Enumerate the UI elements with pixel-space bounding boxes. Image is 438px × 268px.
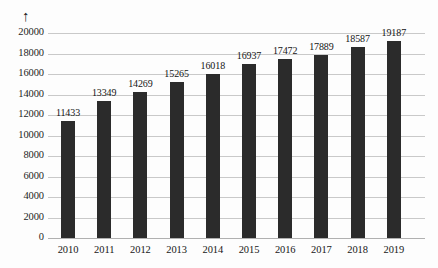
gridline: [48, 74, 425, 75]
y-axis-tick-label: 16000: [0, 67, 44, 78]
x-axis-tick-label: 2014: [195, 244, 231, 255]
bar: [97, 101, 111, 238]
y-axis-tick-label: 18000: [0, 47, 44, 58]
x-axis-tick-label: 2011: [86, 244, 122, 255]
bar-value-label: 19187: [376, 27, 412, 38]
x-axis-tick-label: 2019: [376, 244, 412, 255]
bar: [351, 47, 365, 238]
y-axis-tick-label: 14000: [0, 88, 44, 99]
bar-value-label: 17889: [303, 41, 339, 52]
y-axis-tick-label: 0: [0, 231, 44, 242]
bar: [61, 121, 75, 238]
y-axis-arrow-icon: ↑: [22, 9, 30, 24]
y-axis-tick-label: 4000: [0, 190, 44, 201]
y-axis-tick-label: 12000: [0, 108, 44, 119]
x-axis-tick-label: 2013: [159, 244, 195, 255]
y-axis: ↑ 20000180001600014000120001000080006000…: [0, 0, 44, 268]
y-axis-tick-label: 6000: [0, 170, 44, 181]
bar: [387, 41, 401, 238]
bar: [278, 59, 292, 238]
bar-value-label: 15265: [159, 68, 195, 79]
plot-area: 1143313349142691526516018169371747217889…: [48, 33, 425, 238]
bar-value-label: 18587: [340, 33, 376, 44]
bar: [242, 64, 256, 238]
x-axis-tick-label: 2017: [303, 244, 339, 255]
bar: [314, 55, 328, 238]
bar: [206, 74, 220, 238]
bar-value-label: 14269: [122, 78, 158, 89]
bar: [133, 92, 147, 238]
x-axis-tick-label: 2018: [340, 244, 376, 255]
y-axis-tick-label: 8000: [0, 149, 44, 160]
x-axis-tick-label: 2016: [267, 244, 303, 255]
y-axis-tick-label: 20000: [0, 26, 44, 37]
x-axis-tick-label: 2015: [231, 244, 267, 255]
bar-value-label: 13349: [86, 87, 122, 98]
bar-value-label: 17472: [267, 45, 303, 56]
bar-chart-screenshot: ↑ 20000180001600014000120001000080006000…: [0, 0, 438, 268]
bar-value-label: 16018: [195, 60, 231, 71]
x-axis-tick-label: 2010: [50, 244, 86, 255]
bar-value-label: 11433: [50, 107, 86, 118]
axis-baseline: [48, 238, 425, 239]
y-axis-tick-label: 2000: [0, 211, 44, 222]
x-axis-tick-label: 2012: [122, 244, 158, 255]
bar: [170, 82, 184, 238]
bar-value-label: 16937: [231, 50, 267, 61]
y-axis-tick-label: 10000: [0, 129, 44, 140]
x-axis: 2010201120122013201420152016201720182019: [48, 244, 425, 262]
